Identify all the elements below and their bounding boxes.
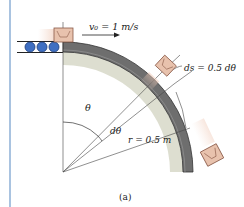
roller-icon bbox=[25, 42, 35, 52]
velocity-arrow bbox=[82, 33, 120, 38]
velocity-label: v₀ = 1 m/s bbox=[89, 22, 138, 32]
package-start bbox=[38, 28, 73, 42]
roller-conveyor bbox=[17, 42, 63, 53]
arc-length-label: ds = 0.5 dθ bbox=[184, 64, 236, 73]
roller-icon bbox=[49, 42, 59, 52]
left-border-bar bbox=[9, 0, 11, 207]
roller-icon bbox=[37, 42, 47, 52]
theta-label: θ bbox=[85, 103, 91, 113]
figure-caption: (a) bbox=[119, 193, 131, 202]
radius-label: r = 0.5 m bbox=[128, 136, 171, 145]
dtheta-label: dθ bbox=[110, 127, 121, 136]
theta-arc bbox=[63, 122, 98, 136]
package-leaving bbox=[191, 118, 224, 166]
diagram-canvas: v₀ = 1 m/s ds = 0.5 dθ θ dθ r = 0.5 m (a… bbox=[0, 0, 244, 207]
dtheta-arc bbox=[98, 136, 102, 141]
